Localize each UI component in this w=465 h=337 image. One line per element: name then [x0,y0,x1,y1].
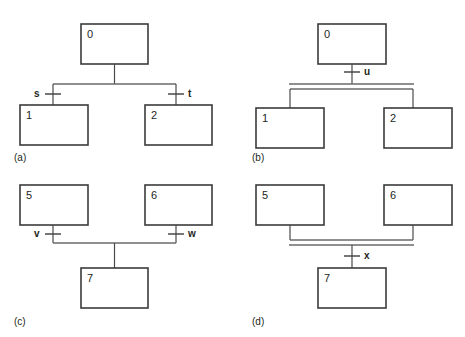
panel-d-box-7-label: 7 [324,272,330,284]
panel-d-tick-label-x: x [364,250,370,261]
panel-d: 5 6 x 7 (d) [252,185,452,327]
panel-b-box-1-label: 1 [262,112,268,124]
panel-a-caption: (a) [14,152,26,163]
figure-root: 0 s t 1 2 (a) 0 u 1 2 (b) 5 [0,0,465,337]
panel-a-box-1-label: 1 [26,109,32,121]
panel-b: 0 u 1 2 (b) [252,24,452,163]
panel-c-box-6-label: 6 [151,189,157,201]
panel-a-tick-label-s: s [34,88,40,99]
panel-a: 0 s t 1 2 (a) [14,24,212,163]
panel-d-box-6-label: 6 [390,189,396,201]
panel-d-box-5-label: 5 [262,189,268,201]
panel-c-tick-label-w: w [187,228,196,239]
panel-c-box-5-label: 5 [26,189,32,201]
panel-a-box-0-label: 0 [87,28,93,40]
four-panel-transition-diagram: 0 s t 1 2 (a) 0 u 1 2 (b) 5 [0,0,465,337]
panel-c-box-7-label: 7 [87,272,93,284]
panel-b-box-2-label: 2 [390,112,396,124]
panel-d-caption: (d) [252,316,264,327]
panel-b-tick-label-u: u [364,66,370,77]
panel-c-caption: (c) [14,316,26,327]
panel-b-box-0-label: 0 [324,28,330,40]
panel-a-tick-label-t: t [188,88,192,99]
panel-b-caption: (b) [252,152,264,163]
panel-a-box-2-label: 2 [151,109,157,121]
panel-c: 5 6 v w 7 (c) [14,185,212,327]
panel-c-tick-label-v: v [34,228,40,239]
